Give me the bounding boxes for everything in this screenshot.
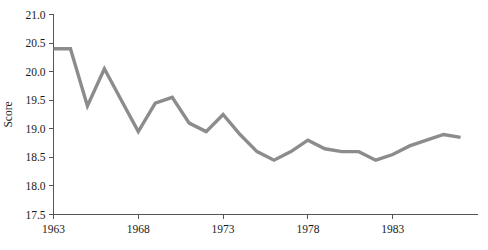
y-axis-ticks: 21.020.520.019.519.018.518.017.5 bbox=[25, 9, 53, 221]
y-axis-title: Score bbox=[2, 101, 14, 127]
y-tick-label: 19.0 bbox=[25, 123, 45, 135]
x-axis-ticks: 19631968197319781983 bbox=[42, 215, 404, 235]
x-tick-label: 1968 bbox=[127, 223, 150, 235]
y-tick-label: 17.5 bbox=[25, 209, 45, 221]
y-tick-label: 19.5 bbox=[25, 94, 45, 106]
line-chart: 21.020.520.019.519.018.518.017.5 1963196… bbox=[0, 0, 488, 250]
y-tick-label: 20.0 bbox=[25, 66, 45, 78]
chart-canvas: 21.020.520.019.519.018.518.017.5 1963196… bbox=[0, 0, 488, 250]
x-tick-label: 1983 bbox=[381, 223, 404, 235]
x-tick-label: 1973 bbox=[212, 223, 235, 235]
x-tick-label: 1978 bbox=[296, 223, 319, 235]
y-tick-label: 18.5 bbox=[25, 151, 45, 163]
data-series-line bbox=[54, 49, 461, 160]
y-tick-label: 20.5 bbox=[25, 37, 45, 49]
x-tick-label: 1963 bbox=[42, 223, 65, 235]
y-tick-label: 18.0 bbox=[25, 180, 45, 192]
y-tick-label: 21.0 bbox=[25, 9, 45, 21]
